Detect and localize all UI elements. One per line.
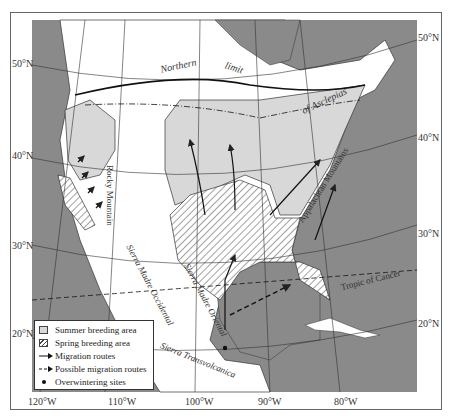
- lon-label: 90°W: [258, 396, 281, 407]
- legend-item-overwintering: Overwintering sites: [39, 375, 149, 388]
- legend-item-migration: Migration routes: [39, 349, 149, 362]
- gray-square-icon: [39, 326, 48, 334]
- overwintering-site: [223, 346, 227, 350]
- solid-arrow-icon: [39, 353, 53, 359]
- lat-label: 30°N: [12, 240, 33, 251]
- lat-label: 50°N: [418, 32, 439, 43]
- lat-label: 40°N: [418, 132, 439, 143]
- legend-item-spring: Spring breeding area: [39, 336, 149, 349]
- dot-icon: [39, 379, 53, 385]
- legend-item-possible-migration: Possible migration routes: [39, 362, 149, 375]
- lon-label: 110°W: [108, 396, 136, 407]
- lat-label: 50°N: [12, 58, 33, 69]
- lat-label: 30°N: [418, 228, 439, 239]
- lat-label: 40°N: [12, 150, 33, 161]
- dashed-arrow-icon: [39, 366, 53, 372]
- hatched-square-icon: [39, 339, 48, 347]
- lat-label: 20°N: [418, 318, 439, 329]
- label-rocky-mountain: Rocky Mountain: [105, 165, 115, 226]
- lon-label: 80°W: [334, 396, 357, 407]
- legend-item-summer: Summer breeding area: [39, 323, 149, 336]
- lat-label: 20°N: [12, 328, 33, 339]
- lon-label: 120°W: [28, 396, 56, 407]
- legend: Summer breeding area Spring breeding are…: [34, 320, 154, 390]
- lon-label: 100°W: [185, 396, 213, 407]
